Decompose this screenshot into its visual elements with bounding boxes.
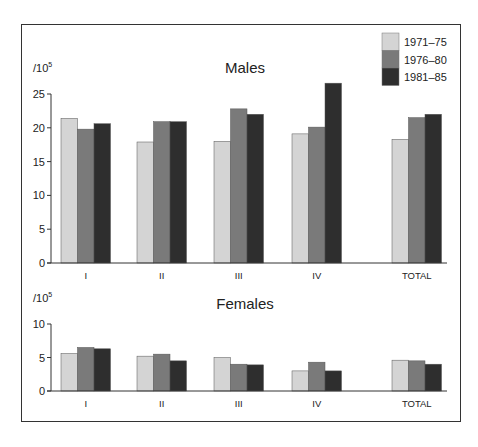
- x-tick-label: TOTAL: [402, 270, 432, 281]
- bar: [154, 354, 171, 391]
- y-tick-label: 20: [33, 122, 45, 134]
- bar: [231, 364, 248, 391]
- y-tick-label: 10: [33, 189, 45, 201]
- legend: 1971–751976–801981–85: [382, 33, 447, 86]
- y-tick-label: 5: [39, 223, 45, 235]
- bar: [94, 349, 111, 391]
- x-tick-label: IV: [312, 270, 322, 281]
- x-tick-label: III: [235, 398, 243, 409]
- bar: [292, 134, 309, 263]
- bar: [78, 129, 95, 263]
- bar: [170, 122, 187, 263]
- bar: [309, 362, 326, 391]
- x-tick-label: TOTAL: [402, 398, 432, 409]
- x-tick-label: I: [84, 398, 87, 409]
- legend-swatch: [382, 51, 399, 69]
- y-unit-label: /105: [33, 61, 52, 74]
- bar: [61, 118, 78, 263]
- bar: [78, 347, 95, 391]
- x-tick-label: I: [84, 270, 87, 281]
- x-tick-label: II: [159, 270, 164, 281]
- legend-label: 1976–80: [404, 54, 447, 66]
- x-tick-label: III: [235, 270, 243, 281]
- bar: [137, 356, 154, 391]
- males-chart: Males/105IIIIIIIVTOTAL0510152025: [33, 59, 447, 281]
- bar: [61, 353, 78, 391]
- y-tick-label: 5: [39, 352, 45, 364]
- bar: [309, 127, 326, 263]
- y-unit-label: /105: [33, 291, 52, 304]
- bar: [409, 361, 426, 391]
- bar: [425, 364, 442, 391]
- legend-swatch: [382, 33, 399, 51]
- bar: [154, 122, 171, 263]
- y-tick-label: 15: [33, 156, 45, 168]
- y-tick-label: 0: [39, 257, 45, 269]
- bar: [325, 83, 342, 263]
- bar: [392, 139, 409, 263]
- bar: [425, 114, 442, 263]
- bar: [231, 109, 248, 263]
- bar: [137, 142, 154, 263]
- chart-title: Females: [216, 295, 274, 312]
- bar: [214, 358, 231, 392]
- bar: [214, 141, 231, 263]
- bar: [247, 114, 264, 263]
- females-chart: Females/105IIIIIIIVTOTAL0510: [33, 291, 447, 409]
- bar: [392, 360, 409, 391]
- x-tick-label: IV: [312, 398, 322, 409]
- bar: [247, 365, 264, 391]
- chart-canvas: Males/105IIIIIIIVTOTAL0510152025Females/…: [0, 0, 478, 447]
- y-tick-label: 0: [39, 385, 45, 397]
- bar: [292, 371, 309, 391]
- y-tick-label: 10: [33, 318, 45, 330]
- legend-label: 1971–75: [404, 36, 447, 48]
- bar: [94, 124, 111, 263]
- bar: [170, 361, 187, 391]
- bar: [325, 371, 342, 391]
- legend-swatch: [382, 68, 399, 86]
- bar: [409, 118, 426, 263]
- legend-label: 1981–85: [404, 71, 447, 83]
- y-tick-label: 25: [33, 88, 45, 100]
- chart-title: Males: [225, 59, 265, 76]
- x-tick-label: II: [159, 398, 164, 409]
